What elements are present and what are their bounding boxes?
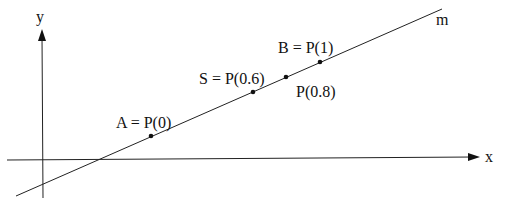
line-m <box>16 9 442 196</box>
line-m-label: m <box>436 11 449 28</box>
point-b <box>318 60 323 65</box>
point-p08-label: P(0.8) <box>296 83 336 101</box>
y-axis-arrow-icon <box>38 29 46 41</box>
diagram-canvas: x y m A = P(0) S = P(0.6) P(0.8) B = P(1… <box>0 0 507 200</box>
x-axis-arrow-icon <box>468 153 480 161</box>
y-axis <box>42 36 43 198</box>
x-axis <box>7 157 474 160</box>
point-a-label: A = P(0) <box>116 114 171 132</box>
point-p08 <box>284 75 289 80</box>
diagram-svg: x y m A = P(0) S = P(0.6) P(0.8) B = P(1… <box>0 0 507 200</box>
y-axis-label: y <box>36 8 44 26</box>
point-a <box>149 134 154 139</box>
x-axis-label: x <box>485 148 493 165</box>
point-b-label: B = P(1) <box>278 39 333 57</box>
point-s-label: S = P(0.6) <box>199 70 264 88</box>
point-s <box>251 90 256 95</box>
